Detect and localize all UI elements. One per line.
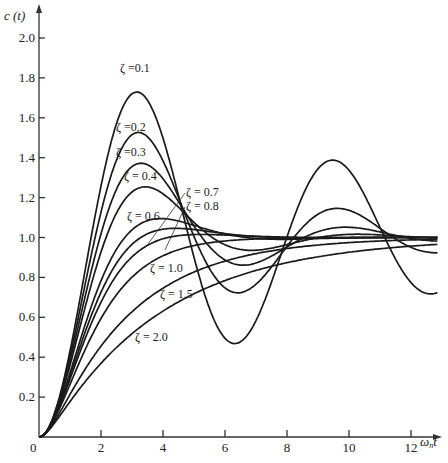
x-axis-label-t: t xyxy=(433,434,437,449)
x-tick-label: 8 xyxy=(284,440,291,455)
y-tick-label: 2.0 xyxy=(19,30,35,45)
y-tick-label: 0.2 xyxy=(19,389,35,404)
y-axis-arrow-icon xyxy=(36,4,42,13)
curve-label: ζ = 0.6 xyxy=(127,209,160,223)
y-tick-label: 0.4 xyxy=(19,349,36,364)
curve-label: ζ = 0.4 xyxy=(124,169,157,183)
curve-label: ζ =0.1 xyxy=(120,61,150,75)
x-tick-label: 12 xyxy=(405,440,418,455)
curve-zeta-0.3 xyxy=(39,163,437,437)
y-tick-label: 1.6 xyxy=(19,110,36,125)
curve-zeta-0.6 xyxy=(39,219,437,437)
x-tick-label: 2 xyxy=(98,440,105,455)
x-ticks: 24681012 xyxy=(98,430,418,455)
curve-label: ζ = 0.7 xyxy=(186,185,219,199)
axes xyxy=(36,4,442,440)
curve-zeta-1.5 xyxy=(39,239,437,437)
y-tick-label: 0.6 xyxy=(19,309,36,324)
x-tick-label: 10 xyxy=(343,440,356,455)
x-axis-label: ωnt xyxy=(420,434,437,450)
y-tick-label: 1.4 xyxy=(19,150,36,165)
curve-zeta-2 xyxy=(39,244,437,437)
y-tick-label: 1.8 xyxy=(19,70,35,85)
curve-labels: ζ =0.1ζ =0.2ζ =0.3ζ = 0.4ζ = 0.6ζ = 0.7ζ… xyxy=(116,61,219,344)
x-axis-label-omega: ω xyxy=(420,434,429,449)
response-curves xyxy=(39,92,437,437)
y-tick-label: 1.2 xyxy=(19,190,35,205)
curve-label: ζ =0.2 xyxy=(116,120,146,134)
curve-label: ζ = 2.0 xyxy=(135,330,168,344)
step-response-chart: 0.20.40.60.81.01.21.41.61.82.0 24681012 … xyxy=(0,0,448,463)
y-tick-label: 1.0 xyxy=(19,230,35,245)
curve-label: ζ = 1.0 xyxy=(150,261,183,275)
y-ticks: 0.20.40.60.81.01.21.41.61.82.0 xyxy=(19,30,45,404)
curve-label: ζ = 1.5 xyxy=(160,287,193,301)
curve-label: ζ =0.3 xyxy=(116,145,146,159)
y-tick-label: 0.8 xyxy=(19,269,35,284)
y-axis-label: c (t) xyxy=(4,8,25,23)
x-tick-label: 4 xyxy=(160,440,167,455)
origin-label: 0 xyxy=(30,440,37,455)
curve-label: ζ = 0.8 xyxy=(186,199,219,213)
curve-zeta-1 xyxy=(39,238,437,438)
x-tick-label: 6 xyxy=(222,440,229,455)
